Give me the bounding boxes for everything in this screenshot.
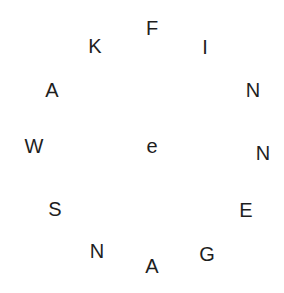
ring-letter: K — [88, 36, 101, 56]
ring-letter: E — [239, 200, 252, 220]
letter-wheel-puzzle: F I N N E G A N S W A K e — [0, 0, 284, 293]
ring-letter: W — [25, 136, 44, 156]
ring-letter: S — [48, 199, 61, 219]
ring-letter: N — [256, 143, 270, 163]
ring-letter: I — [202, 37, 208, 57]
ring-letter: A — [45, 80, 58, 100]
ring-letter: N — [246, 80, 260, 100]
ring-letter: A — [145, 256, 158, 276]
ring-letter: F — [146, 18, 158, 38]
center-letter: e — [146, 136, 157, 156]
ring-letter: N — [90, 241, 104, 261]
ring-letter: G — [199, 244, 215, 264]
